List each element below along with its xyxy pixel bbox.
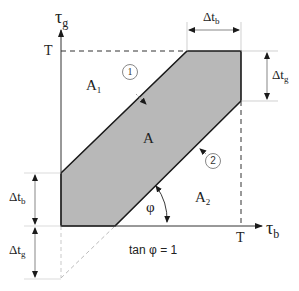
dim-left-upper-label: Δtb [9, 190, 25, 206]
equation-label: tan φ = 1 [129, 244, 177, 256]
angle-arc [156, 186, 167, 222]
diagram: τg τb T T A1 A A2 1 2 φ Δtb Δtg Δtb Δtg … [0, 0, 299, 291]
dim-left-lower-label: Δtg [9, 243, 25, 259]
x-axis-label: τb [266, 219, 279, 240]
y-axis-label: τg [55, 8, 68, 29]
leader-2 [200, 149, 206, 154]
region-a1-label: A1 [86, 78, 101, 95]
angle-label: φ [146, 200, 155, 215]
dim-top-label: Δtb [203, 10, 219, 26]
dim-right-label: Δtg [272, 68, 288, 84]
diagonal-extension [61, 226, 115, 278]
boundary-marker-1: 1 [122, 64, 138, 80]
y-limit-label: T [44, 44, 53, 58]
region-a2-label: A2 [195, 190, 210, 207]
region-a-label: A [143, 131, 154, 146]
boundary-marker-2: 2 [205, 153, 221, 169]
x-limit-label: T [236, 231, 245, 245]
